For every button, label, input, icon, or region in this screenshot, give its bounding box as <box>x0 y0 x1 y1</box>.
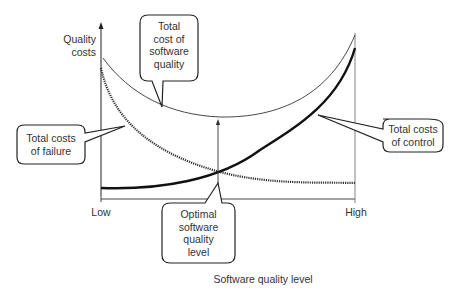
callout-line: level <box>163 246 234 259</box>
callout-control-text: Total costs of control <box>384 123 442 148</box>
callout-failure-text: Total costs of failure <box>18 132 84 157</box>
callout-optimal-text: Optimal software quality level <box>163 208 234 258</box>
y-axis-arrow-icon <box>99 22 104 29</box>
callout-line: Total costs <box>384 123 442 136</box>
y-axis-label-line2: costs <box>54 46 96 59</box>
callout-line: of control <box>384 136 442 149</box>
callout-line: cost of <box>141 33 197 46</box>
callout-line: Total <box>141 20 197 33</box>
callout-total-quality-text: Total cost of software quality <box>141 20 197 70</box>
callout-line: software <box>141 45 197 58</box>
callout-line: Total costs <box>18 132 84 145</box>
control-cost-curve <box>101 48 355 188</box>
failure-cost-curve <box>101 68 355 183</box>
y-axis-label: Quality costs <box>54 33 96 58</box>
x-axis-title: Software quality level <box>178 273 348 286</box>
callout-line: quality <box>141 58 197 71</box>
callout-line: Optimal <box>163 208 234 221</box>
callout-line: quality <box>163 233 234 246</box>
x-tick-low: Low <box>86 206 116 219</box>
optimal-arrow-icon <box>216 119 220 125</box>
y-axis-label-line1: Quality <box>54 33 96 46</box>
callout-line: of failure <box>18 145 84 158</box>
callout-line: software <box>163 221 234 234</box>
x-tick-high: High <box>338 206 374 219</box>
